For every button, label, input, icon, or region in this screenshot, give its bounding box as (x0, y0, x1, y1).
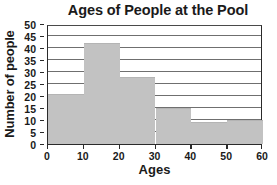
gridline (48, 59, 261, 60)
bar (191, 122, 227, 144)
x-tick-mark (190, 145, 191, 149)
y-tick-mark (40, 72, 44, 73)
x-tick-label: 60 (256, 150, 268, 162)
y-tick-label: 45 (24, 32, 36, 42)
y-tick-mark (40, 84, 44, 85)
x-tick-label: 20 (113, 150, 125, 162)
y-axis-title: Number of people (2, 30, 17, 137)
bar (84, 43, 120, 144)
gridline (48, 71, 261, 72)
y-tick-label: 10 (24, 116, 36, 126)
y-tick-label: 35 (24, 56, 36, 66)
y-tick-mark (40, 60, 44, 61)
chart-screenshot: Ages of People at the Pool Number of peo… (0, 0, 277, 185)
y-tick-mark (40, 132, 44, 133)
bar (48, 94, 84, 144)
y-tick-label: 50 (24, 20, 36, 30)
gridline (48, 35, 261, 36)
x-tick-mark (226, 145, 227, 149)
y-tick-label: 40 (24, 44, 36, 54)
bar (227, 120, 263, 144)
bar (120, 77, 156, 144)
bar (156, 108, 192, 144)
y-tick-label: 20 (24, 92, 36, 102)
x-tick-mark (83, 145, 84, 149)
x-tick-mark (261, 145, 262, 149)
chart-title: Ages of People at the Pool (42, 2, 274, 18)
x-tick-label: 10 (77, 150, 89, 162)
y-tick-label: 0 (30, 140, 36, 150)
gridline (48, 47, 261, 48)
y-tick-mark (40, 36, 44, 37)
y-tick-label: 5 (30, 128, 36, 138)
x-tick-label: 40 (184, 150, 196, 162)
y-tick-label: 25 (24, 80, 36, 90)
x-axis-tick-labels: 0102030405060 (47, 145, 262, 163)
y-axis-title-container: Number of people (0, 22, 18, 146)
x-tick-mark (47, 145, 48, 149)
x-tick-mark (155, 145, 156, 149)
x-tick-label: 50 (220, 150, 232, 162)
y-tick-mark (40, 48, 44, 49)
y-tick-mark (40, 108, 44, 109)
x-axis-title: Ages (47, 162, 262, 177)
y-tick-mark (40, 96, 44, 97)
x-tick-label: 0 (44, 150, 50, 162)
y-tick-mark (40, 144, 44, 145)
y-tick-mark (40, 120, 44, 121)
x-tick-mark (119, 145, 120, 149)
y-tick-label: 30 (24, 68, 36, 78)
x-tick-label: 30 (149, 150, 161, 162)
plot-area (47, 25, 262, 145)
y-tick-label: 15 (24, 104, 36, 114)
y-tick-mark (40, 24, 44, 25)
y-axis-tick-labels: 05101520253035404550 (20, 25, 44, 145)
plot-inner (48, 26, 261, 144)
